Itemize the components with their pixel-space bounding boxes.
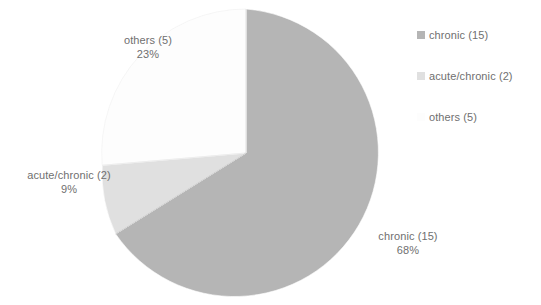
legend-label-others: others (5) [429, 110, 477, 124]
slice-label-others-name: others (5) [124, 34, 172, 46]
slice-label-acute-chronic-name: acute/chronic (2) [27, 169, 111, 181]
pie-chart: others (5) 23% acute/chronic (2) 9% chro… [0, 0, 541, 305]
legend-item-chronic[interactable]: chronic (15) [417, 28, 541, 42]
legend-label-chronic: chronic (15) [429, 28, 488, 42]
slice-label-chronic-percent: 68% [352, 243, 464, 257]
legend-label-acute-chronic: acute/chronic (2) [429, 69, 513, 83]
legend-swatch-icon [417, 72, 425, 80]
legend-item-others[interactable]: others (5) [417, 110, 541, 124]
slice-label-others: others (5) 23% [88, 33, 208, 61]
slice-label-acute-chronic: acute/chronic (2) 9% [8, 168, 130, 196]
chart-legend: chronic (15) acute/chronic (2) others (5… [417, 28, 541, 151]
slice-label-others-percent: 23% [88, 47, 208, 61]
slice-label-acute-chronic-percent: 9% [8, 182, 130, 196]
legend-swatch-icon [417, 31, 425, 39]
legend-item-acute-chronic[interactable]: acute/chronic (2) [417, 69, 541, 83]
slice-label-chronic-name: chronic (15) [378, 230, 437, 242]
slice-label-chronic: chronic (15) 68% [352, 229, 464, 257]
legend-swatch-icon [417, 113, 425, 121]
